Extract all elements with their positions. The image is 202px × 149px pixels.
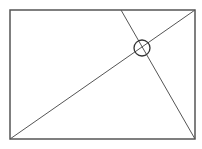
intersection-circle-marker (134, 40, 150, 56)
geometry-diagram (0, 0, 202, 149)
diagonal-line (10, 10, 195, 139)
slanted-line (121, 10, 195, 139)
